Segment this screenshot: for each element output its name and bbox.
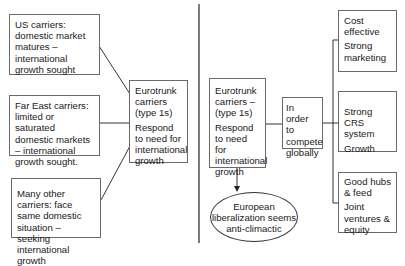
outcome-box-hubs: Good hubs & feed Joint ventures & equity [338, 172, 397, 233]
eurotrunk-body: Respond to need for international growth [215, 122, 260, 178]
source-text: Far East carriers: limited or saturated … [15, 100, 94, 167]
outcome-line: Growth [344, 143, 391, 154]
source-text: Many other carriers: face same domestic … [17, 188, 95, 266]
outcome-box-cost: Cost effective Strong marketing [338, 10, 397, 72]
eurotrunk-title: Eurotrunk carriers (type 1s) [135, 85, 182, 119]
eurotrunk-title: Eurotrunk carriers – (type 1s) [215, 85, 260, 119]
eurotrunk-box-right: Eurotrunk carriers – (type 1s) Respond t… [209, 78, 266, 168]
arrow-head-icon [234, 186, 240, 192]
compete-text: In order to compete globally [286, 102, 319, 158]
eurotrunk-body: Respond to need for international growth [135, 122, 182, 167]
outcome-line: Strong marketing [344, 40, 391, 62]
source-text: US carriers: domestic market matures – i… [15, 19, 94, 75]
outcome-line: Good hubs & feed [344, 176, 391, 198]
source-box-other: Many other carriers: face same domestic … [11, 178, 101, 238]
outcome-line: Cost effective [344, 15, 391, 37]
result-line: anti-climactic [226, 223, 281, 234]
compete-box: In order to compete globally [282, 97, 323, 149]
result-line: liberalization seems [212, 212, 296, 223]
result-ellipse: European liberalization seems anti-clima… [210, 192, 298, 242]
outcome-box-crs: Strong CRS system Growth [338, 91, 397, 152]
result-line: European [233, 201, 275, 212]
outcome-line: Joint ventures & equity [344, 201, 391, 235]
outcome-line: Strong CRS system [344, 106, 391, 140]
source-box-us: US carriers: domestic market matures – i… [9, 14, 100, 75]
source-box-far-east: Far East carriers: limited or saturated … [9, 95, 100, 156]
eurotrunk-box-left: Eurotrunk carriers (type 1s) Respond to … [129, 80, 188, 163]
